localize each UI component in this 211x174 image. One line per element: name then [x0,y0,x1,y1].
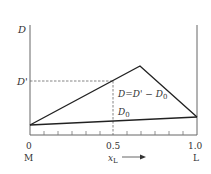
arrow-head-icon [140,155,146,160]
end-label-m: M [24,153,33,163]
curve-label: D=D' − D0 [117,89,167,101]
diagram: D D' D=D' − D0 D0 0 0.5 1.0 M L xL [0,0,211,174]
end-label-l: L [193,153,199,163]
x-axis-label: xL [108,153,118,165]
curve-d [30,66,197,125]
y-axis-label: D [17,24,26,35]
curve-d0 [30,117,197,125]
x-axis-ticks [44,131,183,135]
y-ref-label: D' [16,76,28,87]
tick-label-1-0: 1.0 [188,141,203,151]
tick-label-0: 0 [26,141,32,151]
tick-label-0-5: 0.5 [106,141,121,151]
d0-label: D0 [117,107,130,119]
